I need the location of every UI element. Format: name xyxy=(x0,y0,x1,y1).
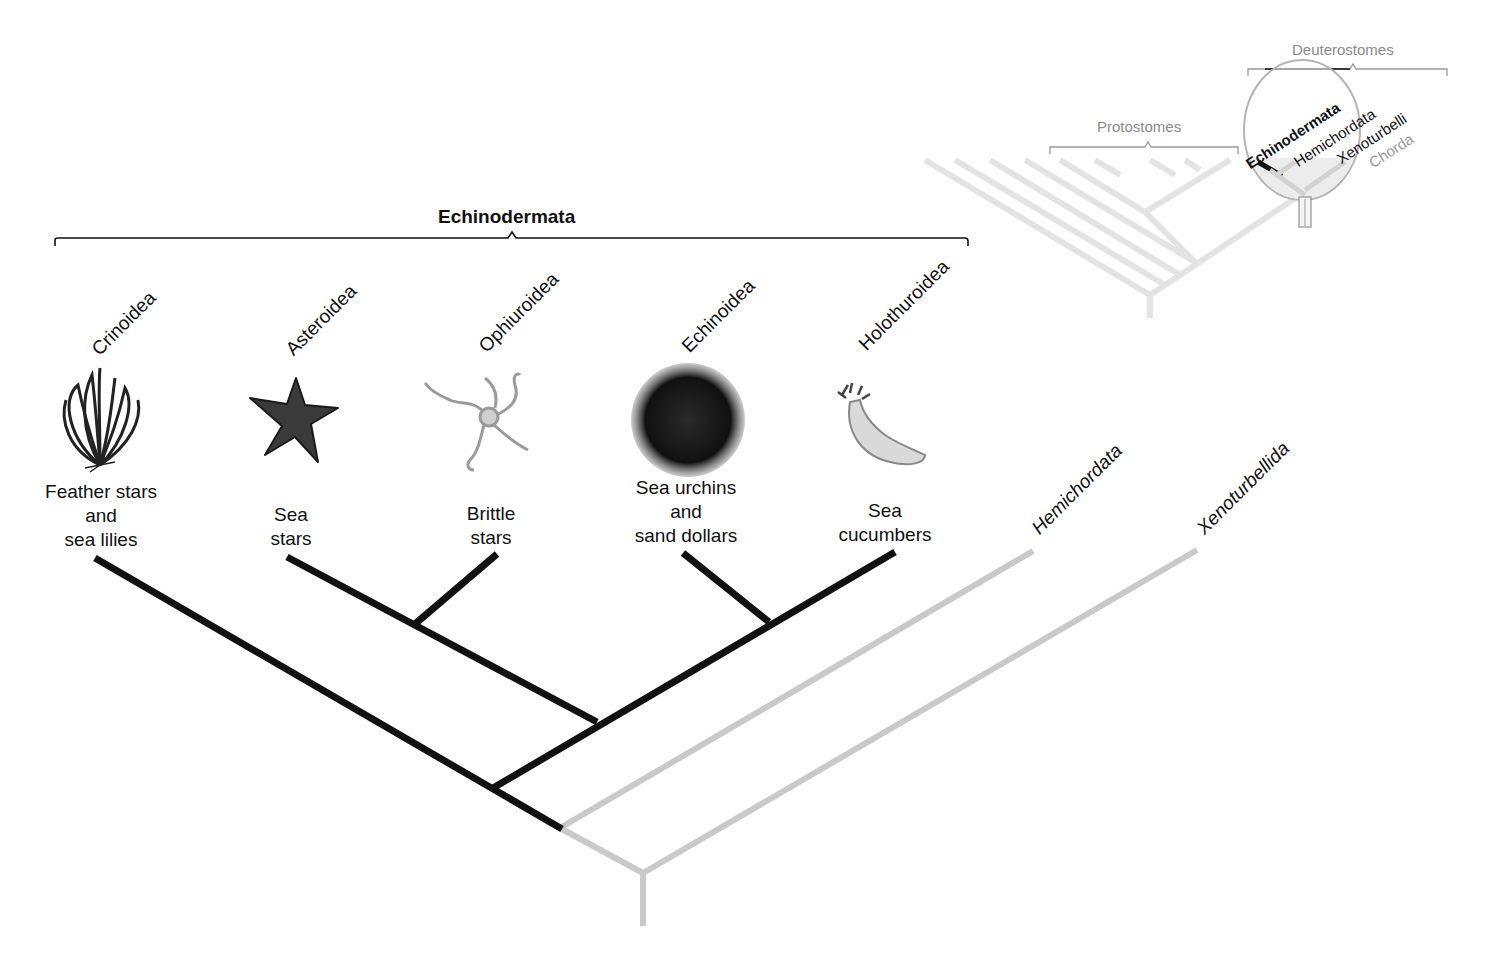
feather-star-icon xyxy=(64,368,139,472)
sea-cucumber-icon xyxy=(838,383,925,464)
common-name-crinoidea: Feather stars and sea lilies xyxy=(11,480,191,552)
common-name-ophiuroidea: Brittle stars xyxy=(401,502,581,550)
common-name-holothuroidea: Sea cucumbers xyxy=(795,499,975,547)
sea-urchin-icon xyxy=(631,363,745,477)
sea-star-icon xyxy=(250,378,338,462)
brittle-star-icon xyxy=(425,374,528,470)
common-name-echinoidea: Sea urchins and sand dollars xyxy=(596,476,776,548)
common-name-asteroidea: Sea stars xyxy=(201,503,381,551)
